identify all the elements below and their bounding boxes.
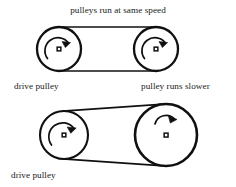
label-pulley-runs-slower: pulley runs slower — [141, 82, 210, 91]
pulley-top-left — [37, 27, 81, 71]
hub-dot-icon — [56, 46, 61, 51]
hub-inner — [63, 134, 65, 136]
diagram-canvas — [0, 0, 236, 187]
pulley-diagram-figure: pulleys run at same speed drive pulley p… — [0, 0, 236, 187]
diagram-equal-size-pulleys — [37, 27, 178, 71]
hub-inner — [58, 48, 60, 50]
figure-title: pulleys run at same speed — [0, 6, 236, 15]
hub-inner — [165, 134, 167, 136]
pulley-bottom-right — [135, 104, 197, 166]
hub-dot-icon — [163, 132, 168, 137]
diagram-unequal-size-pulleys — [40, 104, 197, 166]
pulley-bottom-left — [40, 111, 88, 159]
label-drive-pulley-top: drive pulley — [14, 82, 59, 91]
pulley-top-right — [134, 27, 178, 71]
hub-dot-icon — [153, 46, 158, 51]
hub-inner — [155, 48, 157, 50]
hub-dot-icon — [61, 132, 66, 137]
label-drive-pulley-bottom: drive pulley — [11, 171, 56, 180]
